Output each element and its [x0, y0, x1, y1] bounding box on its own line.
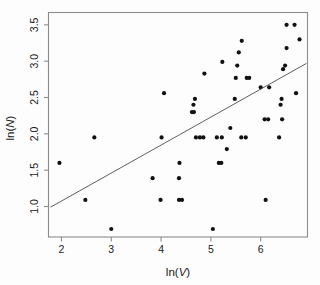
data-point — [194, 135, 198, 139]
data-point — [277, 135, 281, 139]
data-point — [264, 198, 268, 202]
data-point — [280, 117, 284, 121]
data-point — [192, 110, 196, 114]
data-point — [247, 76, 251, 80]
y-axis-title: ln(N) — [4, 115, 16, 140]
data-point — [233, 97, 237, 101]
data-point — [267, 85, 271, 89]
y-tick-label: 1.5 — [28, 163, 40, 178]
data-point — [279, 103, 283, 107]
data-point — [193, 97, 197, 101]
data-point — [225, 147, 229, 151]
data-point — [235, 63, 239, 67]
x-tick-label: 6 — [258, 243, 264, 255]
data-point — [177, 161, 181, 165]
data-point — [211, 227, 215, 231]
data-point — [237, 50, 241, 54]
data-point — [284, 23, 288, 27]
y-tick-label: 2.0 — [28, 126, 40, 141]
data-point — [191, 103, 195, 107]
y-tick-label: 3.5 — [28, 17, 40, 32]
y-tick-label: 1.0 — [28, 199, 40, 214]
x-tick-label: 4 — [158, 243, 164, 255]
data-point — [280, 97, 284, 101]
x-tick-label: 3 — [108, 243, 114, 255]
data-point — [215, 135, 219, 139]
data-point — [83, 198, 87, 202]
x-tick-label: 5 — [208, 243, 214, 255]
plot-canvas: 1.01.52.02.53.03.5 23456 ln(V) ln(N) — [0, 0, 320, 285]
data-point — [109, 227, 113, 231]
data-point — [162, 91, 166, 95]
y-tick-label: 2.5 — [28, 90, 40, 105]
data-point — [158, 198, 162, 202]
data-point — [284, 46, 288, 50]
data-point — [228, 126, 232, 130]
x-axis-title: ln(V) — [166, 266, 190, 278]
data-point — [151, 176, 155, 180]
data-point — [180, 198, 184, 202]
data-point — [177, 176, 181, 180]
data-point — [292, 23, 296, 27]
data-point — [297, 37, 301, 41]
y-tick-label: 3.0 — [28, 54, 40, 69]
data-point — [283, 63, 287, 67]
data-point — [281, 67, 285, 71]
scatter-plot-figure: 1.01.52.02.53.03.5 23456 ln(V) ln(N) — [0, 0, 320, 285]
data-point — [57, 161, 61, 165]
data-point — [159, 135, 163, 139]
data-point — [92, 135, 96, 139]
data-point — [234, 76, 238, 80]
data-point — [220, 60, 224, 64]
data-point — [202, 71, 206, 75]
x-tick-label: 2 — [59, 243, 65, 255]
data-point — [219, 161, 223, 165]
data-point — [239, 135, 243, 139]
data-point — [266, 117, 270, 121]
data-point — [240, 39, 244, 43]
data-point — [244, 135, 248, 139]
data-point — [201, 135, 205, 139]
data-point — [294, 91, 298, 95]
data-point — [220, 135, 224, 139]
